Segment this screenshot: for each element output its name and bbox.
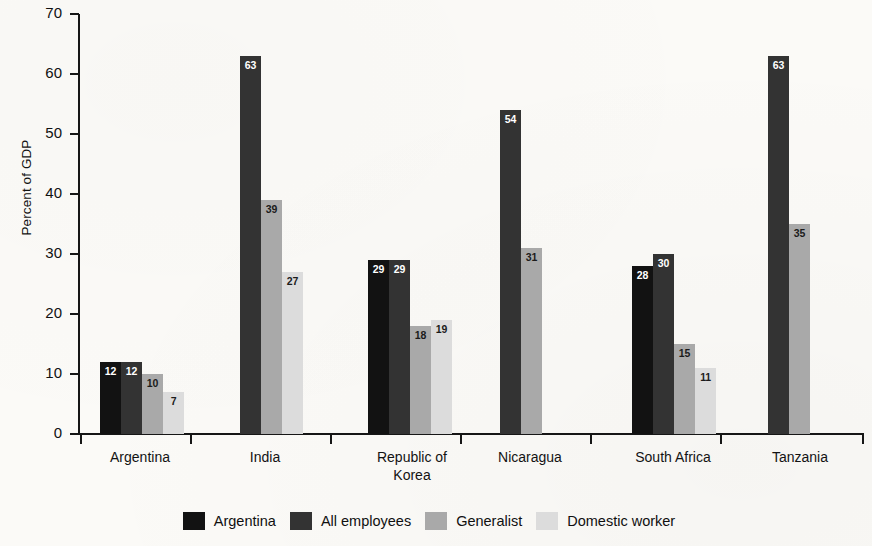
y-axis-tick [70, 253, 79, 255]
y-axis-tick-label-text: 20 [22, 305, 62, 320]
bar[interactable]: 12 [121, 362, 142, 434]
bar-value-label: 19 [431, 324, 452, 336]
bar-value-label: 29 [368, 264, 389, 276]
x-axis-tick [460, 435, 462, 444]
bar-value-label: 35 [789, 228, 810, 240]
bar-value-label: 11 [695, 372, 716, 384]
legend-label: Argentina [214, 513, 276, 529]
bar-value-label: 10 [142, 378, 163, 390]
y-axis-tick-label-text: 50 [22, 125, 62, 140]
y-axis-tick [70, 193, 79, 195]
bar[interactable]: 12 [100, 362, 121, 434]
bar-value-label: 7 [163, 396, 184, 408]
x-axis-line [78, 433, 864, 435]
legend-swatch-icon [425, 512, 447, 530]
bar[interactable]: 11 [695, 368, 716, 434]
bar[interactable]: 31 [521, 248, 542, 434]
y-axis-tick [70, 373, 79, 375]
y-axis-tick-label: 40 [16, 185, 62, 201]
x-axis-category-label-line: South Africa [603, 448, 743, 466]
y-axis-tick-label: 60 [16, 65, 62, 81]
y-axis-tick-label-text: 70 [22, 5, 62, 20]
bar[interactable]: 15 [674, 344, 695, 434]
bar-value-label: 63 [240, 60, 261, 72]
y-axis-tick-label: 20 [16, 305, 62, 321]
x-axis-category-label-line: Nicaragua [460, 448, 600, 466]
bar[interactable]: 28 [632, 266, 653, 434]
legend-label: All employees [321, 513, 411, 529]
legend-label: Domestic worker [567, 513, 675, 529]
x-axis-category-label: India [195, 448, 335, 466]
x-axis-tick [330, 435, 332, 444]
x-axis-category-label: Argentina [70, 448, 210, 466]
bar[interactable]: 19 [431, 320, 452, 434]
legend-swatch-icon [183, 512, 205, 530]
legend-item[interactable]: All employees [290, 512, 411, 530]
y-axis-tick-label: 10 [16, 365, 62, 381]
bar[interactable]: 30 [653, 254, 674, 434]
bar-value-label: 31 [521, 252, 542, 264]
y-axis-tick-label-text: 40 [22, 185, 62, 200]
y-axis-tick-label: 30 [16, 245, 62, 261]
bar[interactable]: 10 [142, 374, 163, 434]
y-axis-tick [70, 13, 79, 15]
y-axis-tick [70, 73, 79, 75]
bar[interactable]: 29 [368, 260, 389, 434]
bar-value-label: 29 [389, 264, 410, 276]
y-axis-tick [70, 433, 79, 435]
y-axis-tick-label: 50 [16, 125, 62, 141]
bar[interactable]: 35 [789, 224, 810, 434]
x-axis-category-label: South Africa [603, 448, 743, 466]
x-axis-category-label-line: India [195, 448, 335, 466]
bar-value-label: 54 [500, 114, 521, 126]
x-axis-category-label: Nicaragua [460, 448, 600, 466]
x-axis-category-label-line: Korea [342, 466, 482, 484]
legend-swatch-icon [290, 512, 312, 530]
x-axis-tick [720, 435, 722, 444]
bar-value-label: 39 [261, 204, 282, 216]
legend-item[interactable]: Argentina [183, 512, 276, 530]
legend-swatch-icon [536, 512, 558, 530]
bar-value-label: 30 [653, 258, 674, 270]
x-axis-category-label-line: Argentina [70, 448, 210, 466]
y-axis-tick-label: 70 [16, 5, 62, 21]
bar-value-label: 27 [282, 276, 303, 288]
bar-chart: Percent of GDP 010203040506070 121210763… [0, 0, 872, 546]
legend-item[interactable]: Domestic worker [536, 512, 675, 530]
x-axis-tick [80, 435, 82, 444]
bar-value-label: 12 [121, 366, 142, 378]
y-axis-line [78, 14, 80, 434]
bar-value-label: 15 [674, 348, 695, 360]
bar-value-label: 12 [100, 366, 121, 378]
x-axis-tick [862, 435, 864, 444]
y-axis-tick-label-text: 10 [22, 365, 62, 380]
bar[interactable]: 27 [282, 272, 303, 434]
x-axis-category-label: Tanzania [730, 448, 870, 466]
bar-value-label: 28 [632, 270, 653, 282]
bar[interactable]: 54 [500, 110, 521, 434]
bar-value-label: 63 [768, 60, 789, 72]
x-axis-tick [590, 435, 592, 444]
bar[interactable]: 18 [410, 326, 431, 434]
bar[interactable]: 7 [163, 392, 184, 434]
chart-legend: ArgentinaAll employeesGeneralistDomestic… [0, 512, 872, 530]
y-axis-tick-label-text: 60 [22, 65, 62, 80]
y-axis-tick-label-text: 30 [22, 245, 62, 260]
y-axis-tick-label: 0 [16, 425, 62, 441]
x-axis-tick [190, 435, 192, 444]
y-axis-tick [70, 133, 79, 135]
bar[interactable]: 29 [389, 260, 410, 434]
x-axis-category-label-line: Tanzania [730, 448, 870, 466]
bar[interactable]: 39 [261, 200, 282, 434]
legend-label: Generalist [456, 513, 522, 529]
legend-item[interactable]: Generalist [425, 512, 522, 530]
bar-value-label: 18 [410, 330, 431, 342]
y-axis-tick [70, 313, 79, 315]
bar[interactable]: 63 [768, 56, 789, 434]
y-axis-tick-label-text: 0 [22, 425, 62, 440]
bar[interactable]: 63 [240, 56, 261, 434]
